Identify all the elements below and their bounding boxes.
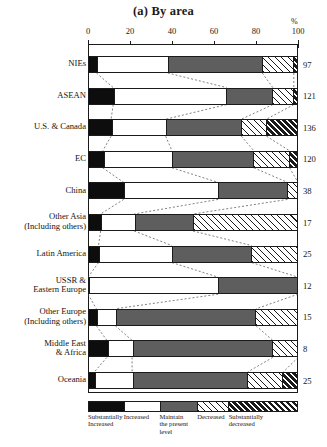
bar-segment-substantially-decreased bbox=[293, 89, 297, 104]
bar-row bbox=[88, 119, 298, 136]
category-count-value: 8 bbox=[303, 344, 307, 354]
bar-segment-decreased bbox=[253, 152, 288, 167]
bar-segment-substantially-decreased bbox=[289, 152, 297, 167]
category-label: U.S. & Canada bbox=[34, 122, 86, 132]
category-label: NIEs bbox=[68, 59, 86, 69]
legend-swatch-sub-decreased bbox=[228, 402, 297, 411]
bar-segment-increased bbox=[97, 57, 168, 72]
category-count-value: 38 bbox=[303, 186, 312, 196]
bar-segment-maintain-present-level bbox=[116, 310, 255, 325]
bar-segment-decreased bbox=[241, 120, 266, 135]
bar-segment-substantially-decreased bbox=[293, 57, 297, 72]
x-axis-tick-labels: 020406080100 bbox=[0, 26, 327, 38]
bar-segment-maintain-present-level bbox=[218, 183, 287, 198]
bar-segment-maintain-present-level bbox=[226, 89, 272, 104]
bar-segment-substantially-increased bbox=[89, 57, 97, 72]
bar-segment-substantially-increased bbox=[89, 247, 99, 262]
stacked-bar bbox=[88, 88, 298, 105]
legend-swatch-decreased bbox=[197, 402, 228, 411]
category-label: China bbox=[65, 186, 86, 196]
x-tick-label-80: 80 bbox=[252, 26, 261, 36]
category-label: Other Asia (Including others) bbox=[24, 212, 86, 231]
bar-segment-decreased bbox=[193, 215, 297, 230]
bar-row bbox=[88, 309, 298, 326]
bar-segment-substantially-increased bbox=[89, 120, 112, 135]
category-label: Latin America bbox=[37, 249, 86, 259]
bar-segment-decreased bbox=[272, 89, 293, 104]
legend-swatch-bar bbox=[88, 401, 298, 412]
bar-segment-increased bbox=[89, 278, 218, 293]
stacked-bar bbox=[88, 372, 298, 389]
category-label: USSR & Eastern Europe bbox=[33, 276, 86, 295]
bar-segment-maintain-present-level bbox=[133, 373, 247, 388]
category-label: Other Europe (Including others) bbox=[24, 307, 86, 326]
bar-segment-decreased bbox=[251, 247, 297, 262]
bar-row bbox=[88, 56, 298, 73]
x-tick-mark-100 bbox=[298, 40, 299, 48]
bar-segment-substantially-increased bbox=[89, 89, 114, 104]
x-tick-label-60: 60 bbox=[210, 26, 219, 36]
bar-row bbox=[88, 182, 298, 199]
axis-unit-label: % bbox=[291, 17, 298, 26]
bar-segment-increased bbox=[112, 120, 166, 135]
category-count-value: 97 bbox=[303, 60, 312, 70]
x-tick-mark-20 bbox=[130, 41, 131, 45]
bar-row bbox=[88, 246, 298, 263]
chart-container: (a) By area % 020406080100 NIEsASEANU.S.… bbox=[0, 0, 327, 447]
bar-row bbox=[88, 372, 298, 389]
bar-segment-maintain-present-level bbox=[166, 120, 241, 135]
bar-segment-substantially-increased bbox=[89, 341, 108, 356]
x-tick-label-40: 40 bbox=[168, 26, 177, 36]
bar-segment-substantially-increased bbox=[89, 310, 97, 325]
legend-labels: Substantially IncreasedIncreasedMaintain… bbox=[86, 413, 327, 445]
bar-segment-substantially-decreased bbox=[266, 120, 297, 135]
legend-swatch-sub-increased bbox=[89, 402, 124, 411]
legend-swatch-increased bbox=[124, 402, 159, 411]
bar-segment-decreased bbox=[262, 57, 293, 72]
bar-segment-maintain-present-level bbox=[135, 215, 193, 230]
bar-segment-increased bbox=[101, 215, 134, 230]
legend-label-sub-decreased: Substantially decreased bbox=[229, 413, 316, 428]
category-count-value: 15 bbox=[303, 312, 312, 322]
bar-row bbox=[88, 340, 298, 357]
stacked-bar bbox=[88, 246, 298, 263]
bar-segment-substantially-increased bbox=[89, 152, 104, 167]
bar-segment-increased bbox=[108, 341, 133, 356]
stacked-bar bbox=[88, 182, 298, 199]
bar-segment-decreased bbox=[247, 373, 282, 388]
bar-segment-decreased bbox=[272, 341, 297, 356]
x-tick-mark-40 bbox=[172, 41, 173, 45]
bar-segment-maintain-present-level bbox=[172, 152, 253, 167]
chart-title: (a) By area bbox=[0, 4, 327, 19]
category-count-value: 120 bbox=[303, 154, 316, 164]
stacked-bar bbox=[88, 340, 298, 357]
x-tick-label-100: 100 bbox=[292, 26, 305, 36]
category-label: ASEAN bbox=[57, 91, 86, 101]
category-count-value: 17 bbox=[303, 218, 312, 228]
x-tick-mark-60 bbox=[214, 41, 215, 45]
category-count-value: 25 bbox=[303, 376, 312, 386]
bar-row bbox=[88, 214, 298, 231]
category-count-value: 121 bbox=[303, 91, 316, 101]
bar-segment-substantially-increased bbox=[89, 215, 101, 230]
bar-segment-decreased bbox=[287, 183, 297, 198]
stacked-bar bbox=[88, 56, 298, 73]
bar-segment-increased bbox=[114, 89, 226, 104]
stacked-bar bbox=[88, 151, 298, 168]
category-label: EC bbox=[75, 154, 86, 164]
bar-segment-substantially-decreased bbox=[282, 373, 297, 388]
bar-segment-increased bbox=[99, 247, 172, 262]
category-count-value: 136 bbox=[303, 123, 316, 133]
stacked-bar bbox=[88, 119, 298, 136]
bar-segment-decreased bbox=[255, 310, 297, 325]
bar-segment-maintain-present-level bbox=[168, 57, 262, 72]
legend-swatch-maintain bbox=[160, 402, 197, 411]
category-label: Oceania bbox=[58, 375, 86, 385]
bar-row bbox=[88, 151, 298, 168]
x-tick-label-20: 20 bbox=[126, 26, 135, 36]
stacked-bar bbox=[88, 277, 298, 294]
x-tick-mark-0 bbox=[88, 40, 89, 48]
bar-segment-maintain-present-level bbox=[172, 247, 251, 262]
x-tick-mark-80 bbox=[256, 41, 257, 45]
bar-segment-maintain-present-level bbox=[133, 341, 272, 356]
